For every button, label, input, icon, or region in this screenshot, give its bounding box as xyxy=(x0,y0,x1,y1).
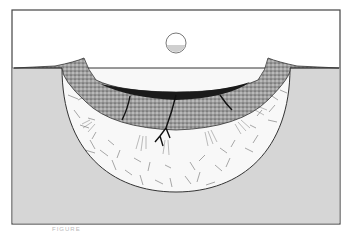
figure-caption: FIGURE xyxy=(52,226,81,232)
impactor-icon xyxy=(166,33,186,53)
crater-diagram xyxy=(0,0,352,234)
